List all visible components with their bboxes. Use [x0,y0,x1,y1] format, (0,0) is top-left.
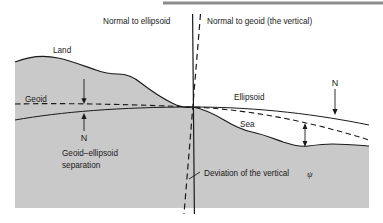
sea-separation-arrowhead-up [303,123,308,129]
label-n-right: N [332,78,339,88]
label-sea: Sea [240,120,255,129]
label-deviation-symbol: ψ [307,169,313,179]
label-land: Land [53,46,72,55]
label-normal-to-geoid: Normal to geoid (the vertical) [207,17,312,26]
label-n-left: N [81,133,88,143]
earth-body-fill [15,56,369,208]
label-ellipsoid: Ellipsoid [234,93,265,102]
geoid-ellipsoid-figure: Normal to ellipsoid Normal to geoid (the… [0,0,383,223]
label-separation-line2: separation [62,161,101,170]
diagram-canvas: Normal to ellipsoid Normal to geoid (the… [0,0,383,223]
label-deviation: Deviation of the vertical [204,169,289,178]
label-separation-line1: Geoid–ellipsoid [62,149,118,158]
n-right-arrowhead [332,109,337,115]
label-normal-to-ellipsoid: Normal to ellipsoid [103,17,171,26]
top-rule [163,2,383,5]
label-geoid: Geoid [25,95,47,104]
